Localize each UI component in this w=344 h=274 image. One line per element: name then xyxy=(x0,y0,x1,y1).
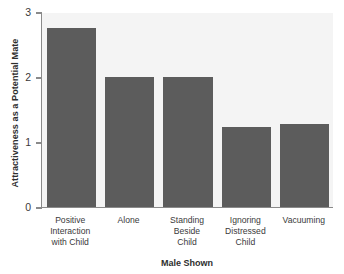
x-axis-title: Male Shown xyxy=(41,258,333,268)
bar xyxy=(222,127,271,207)
plot-area xyxy=(41,13,333,208)
y-axis-tick-label: 2 xyxy=(5,71,31,83)
x-axis-category-label: IgnoringDistressedChild xyxy=(212,215,278,249)
y-axis-tick-label: 3 xyxy=(5,6,31,18)
bar xyxy=(47,28,96,207)
x-axis-category-label-line: Standing xyxy=(154,215,220,226)
x-axis-category-label-line: with Child xyxy=(37,237,103,248)
x-axis-category-label-line: Alone xyxy=(95,215,161,226)
x-axis-category-label: StandingBesideChild xyxy=(154,215,220,249)
y-axis-tick-label: 0 xyxy=(5,201,31,213)
bar xyxy=(163,77,212,207)
x-axis-category-label-line: Interaction xyxy=(37,226,103,237)
x-axis-category-label-line: Vacuuming xyxy=(271,215,337,226)
x-axis-category-label-line: Child xyxy=(212,237,278,248)
x-axis-category-label: Alone xyxy=(95,215,161,226)
x-axis-category-label: PositiveInteractionwith Child xyxy=(37,215,103,249)
bar-chart-figure: Attractiveness as a Potential Mate 0123 … xyxy=(0,0,344,274)
bar xyxy=(105,77,154,207)
x-axis-category-label: Vacuuming xyxy=(271,215,337,226)
x-axis-category-label-line: Child xyxy=(154,237,220,248)
x-axis-category-label-line: Distressed xyxy=(212,226,278,237)
x-axis-category-label-line: Positive xyxy=(37,215,103,226)
bar xyxy=(280,124,329,207)
x-axis-category-label-line: Ignoring xyxy=(212,215,278,226)
x-axis-category-label-line: Beside xyxy=(154,226,220,237)
y-axis-tick-label: 1 xyxy=(5,136,31,148)
y-axis-title: Attractiveness as a Potential Mate xyxy=(10,13,20,213)
